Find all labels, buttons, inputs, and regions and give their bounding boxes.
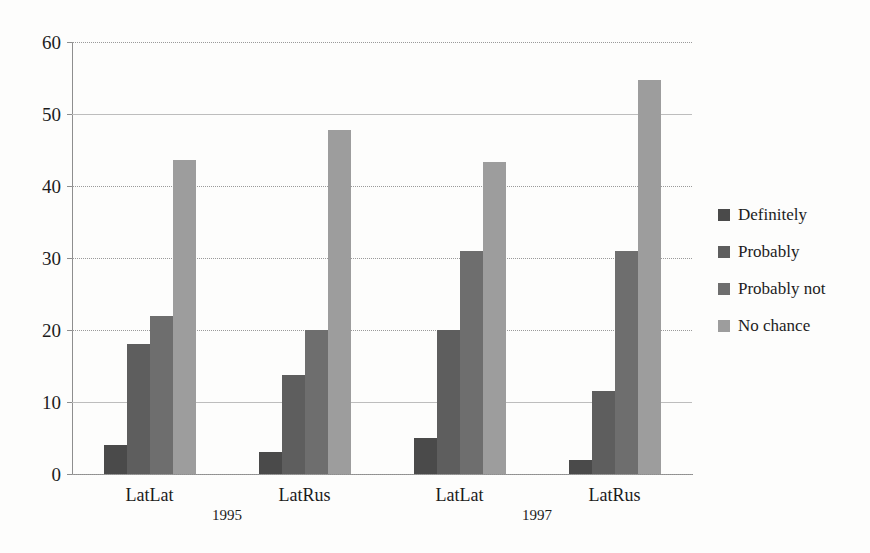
bar bbox=[104, 445, 127, 474]
legend-label: Probably bbox=[738, 243, 799, 260]
legend-swatch-icon bbox=[718, 320, 730, 332]
legend-swatch-icon bbox=[718, 209, 730, 221]
legend-label: Definitely bbox=[738, 206, 807, 223]
legend-item[interactable]: Probably bbox=[718, 233, 868, 270]
x-axis-category-label: LatRus bbox=[589, 486, 641, 504]
bar bbox=[569, 460, 592, 474]
bar bbox=[328, 130, 351, 474]
y-axis-tick-label: 60 bbox=[42, 33, 61, 52]
y-axis-tick-label: 20 bbox=[42, 321, 61, 340]
legend: Definitely Probably Probably not No chan… bbox=[718, 196, 868, 344]
bars-layer bbox=[72, 42, 692, 474]
bar bbox=[282, 375, 305, 474]
x-axis-category-label: LatLat bbox=[126, 486, 174, 504]
plot-area: 0102030405060 bbox=[72, 42, 692, 474]
legend-item[interactable]: Probably not bbox=[718, 270, 868, 307]
y-axis-tick-label: 0 bbox=[52, 465, 62, 484]
legend-swatch-icon bbox=[718, 283, 730, 295]
y-axis-tick bbox=[67, 474, 72, 475]
bar bbox=[305, 330, 328, 474]
legend-label: No chance bbox=[738, 317, 810, 334]
x-axis-category-label: LatLat bbox=[436, 486, 484, 504]
bar bbox=[638, 80, 661, 474]
bar-chart: 0102030405060 LatLatLatRusLatLatLatRus 1… bbox=[0, 0, 870, 553]
bar bbox=[414, 438, 437, 474]
legend-swatch-icon bbox=[718, 246, 730, 258]
gridline bbox=[72, 474, 692, 475]
y-axis-tick-label: 40 bbox=[42, 177, 61, 196]
x-axis-period-label: 1997 bbox=[522, 508, 552, 523]
legend-label: Probably not bbox=[738, 280, 825, 297]
y-axis-tick-label: 10 bbox=[42, 393, 61, 412]
bar bbox=[173, 160, 196, 474]
legend-item[interactable]: Definitely bbox=[718, 196, 868, 233]
bar bbox=[437, 330, 460, 474]
bar bbox=[592, 391, 615, 474]
bar bbox=[483, 162, 506, 474]
legend-item[interactable]: No chance bbox=[718, 307, 868, 344]
bar bbox=[460, 251, 483, 474]
y-axis-tick-label: 30 bbox=[42, 249, 61, 268]
bar bbox=[259, 452, 282, 474]
bar bbox=[615, 251, 638, 474]
bar bbox=[150, 316, 173, 474]
x-axis-category-label: LatRus bbox=[279, 486, 331, 504]
bar bbox=[127, 344, 150, 474]
y-axis-tick-label: 50 bbox=[42, 105, 61, 124]
x-axis-period-label: 1995 bbox=[212, 508, 242, 523]
